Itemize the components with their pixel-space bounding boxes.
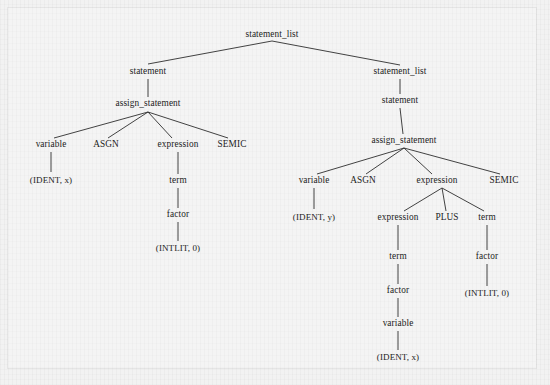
tree-node-terminal: SEMIC (490, 176, 519, 185)
tree-node-nonterminal: variable (299, 176, 330, 185)
tree-edge (400, 108, 403, 134)
tree-edge (442, 188, 484, 211)
tree-node-token: (INTLIT, 0) (465, 289, 509, 298)
tree-node-terminal: ASGN (350, 176, 376, 185)
tree-node-terminal: SEMIC (218, 140, 247, 149)
tree-node-terminal: ASGN (93, 140, 119, 149)
tree-node-token: (IDENT, x) (377, 353, 419, 362)
tree-node-nonterminal: term (389, 252, 406, 261)
tree-node-nonterminal: factor (387, 286, 409, 295)
tree-node-terminal: PLUS (435, 213, 458, 222)
tree-node-nonterminal: factor (476, 252, 498, 261)
tree-node-nonterminal: variable (383, 319, 414, 328)
tree-node-nonterminal: assign_statement (371, 136, 436, 145)
tree-edge (148, 41, 272, 64)
tree-node-nonterminal: term (478, 213, 495, 222)
tree-node-nonterminal: expression (417, 176, 458, 185)
tree-node-nonterminal: assign_statement (115, 99, 180, 108)
parse-tree-figure: statement_liststatementassign_statementv… (0, 0, 550, 385)
tree-edge (404, 188, 442, 211)
tree-node-nonterminal: statement (382, 96, 419, 105)
tree-node-nonterminal: expression (378, 213, 419, 222)
tree-edge (442, 188, 446, 211)
tree-edge (366, 148, 404, 174)
tree-node-token: (IDENT, y) (293, 213, 335, 222)
tree-node-nonterminal: term (169, 176, 186, 185)
tree-node-nonterminal: variable (36, 140, 67, 149)
tree-node-nonterminal: statement_list (245, 30, 298, 39)
tree-node-nonterminal: expression (158, 140, 199, 149)
tree-edge (108, 112, 148, 138)
tree-edge (54, 112, 148, 138)
tree-node-nonterminal: statement_list (373, 67, 426, 76)
tree-node-nonterminal: statement (130, 67, 167, 76)
tree-node-token: (INTLIT, 0) (156, 244, 200, 253)
tree-edge (272, 41, 400, 65)
tree-node-nonterminal: factor (167, 210, 189, 219)
tree-edges-layer (0, 0, 550, 385)
tree-node-token: (IDENT, x) (30, 176, 72, 185)
tree-edge (317, 148, 404, 174)
